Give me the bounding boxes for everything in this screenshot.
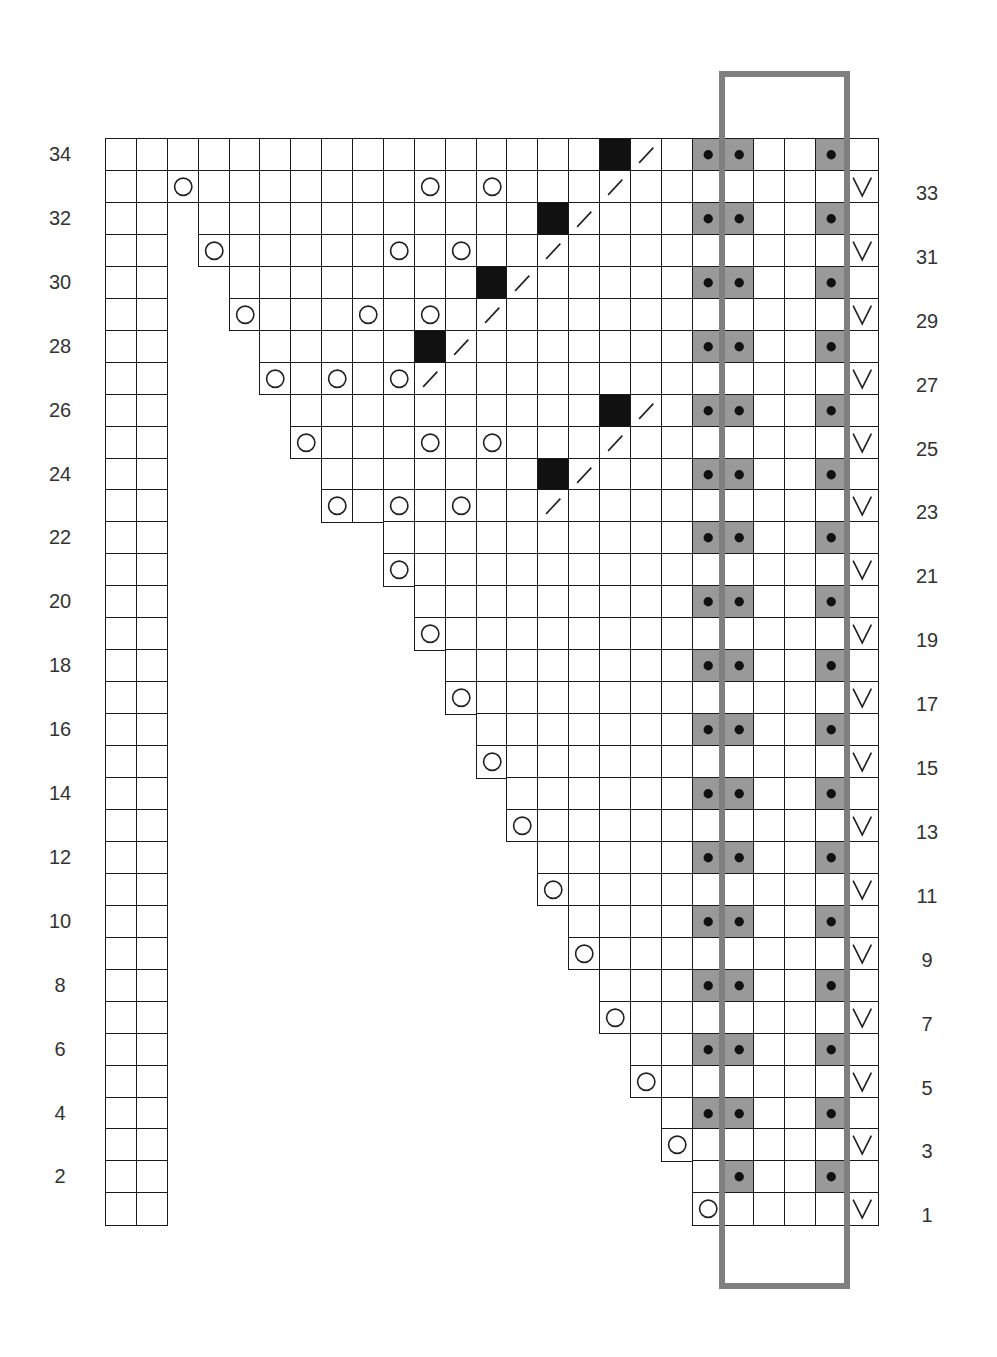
chart-cell <box>136 1033 168 1067</box>
chart-cell <box>476 489 508 523</box>
chart-cell <box>753 298 785 332</box>
purl-dot-icon <box>693 331 723 363</box>
chart-cell <box>753 1160 785 1194</box>
chart-cell <box>784 713 816 747</box>
chart-cell <box>445 585 477 619</box>
chart-cell <box>784 489 816 523</box>
slip-stitch-icon <box>847 938 877 970</box>
chart-cell <box>445 202 477 236</box>
chart-cell <box>723 202 755 236</box>
chart-cell <box>815 394 847 428</box>
chart-cell <box>383 298 415 332</box>
chart-cell <box>723 553 755 587</box>
chart-cell <box>568 330 600 364</box>
row-number-label: 26 <box>40 399 80 422</box>
chart-cell <box>414 234 446 268</box>
chart-cell <box>815 681 847 715</box>
chart-cell <box>537 234 569 268</box>
purl-dot-icon <box>693 1098 723 1130</box>
chart-cell <box>692 809 724 843</box>
chart-cell <box>537 266 569 300</box>
chart-cell <box>630 841 662 875</box>
chart-cell <box>753 969 785 1003</box>
chart-cell <box>352 394 384 428</box>
no-stitch-cell <box>414 330 446 364</box>
chart-cell <box>846 1033 878 1067</box>
k2tog-icon <box>446 331 476 363</box>
chart-cell <box>290 266 322 300</box>
slip-stitch-icon <box>847 235 877 267</box>
row-number-label: 14 <box>40 782 80 805</box>
chart-cell <box>537 585 569 619</box>
chart-cell <box>630 617 662 651</box>
chart-cell <box>723 969 755 1003</box>
chart-cell <box>846 138 878 172</box>
row-number-label: 24 <box>40 463 80 486</box>
chart-cell <box>723 681 755 715</box>
chart-cell <box>259 138 291 172</box>
chart-cell <box>198 202 230 236</box>
yarn-over-icon <box>415 299 445 331</box>
chart-cell <box>445 266 477 300</box>
chart-cell <box>815 330 847 364</box>
chart-cell <box>846 1160 878 1194</box>
slip-stitch-icon <box>847 1002 877 1034</box>
chart-cell <box>321 426 353 460</box>
chart-cell <box>753 745 785 779</box>
chart-cell <box>723 809 755 843</box>
chart-cell <box>568 489 600 523</box>
no-stitch-cell <box>537 202 569 236</box>
chart-cell <box>321 330 353 364</box>
chart-cell <box>815 426 847 460</box>
chart-cell <box>692 298 724 332</box>
chart-cell <box>630 521 662 555</box>
chart-cell <box>259 266 291 300</box>
row-number-label: 33 <box>907 182 947 205</box>
chart-cell <box>105 649 137 683</box>
chart-cell <box>537 489 569 523</box>
chart-cell <box>599 585 631 619</box>
chart-cell <box>661 202 693 236</box>
yarn-over-icon <box>322 363 352 395</box>
chart-cell <box>476 170 508 204</box>
chart-cell <box>723 1001 755 1035</box>
chart-cell <box>476 298 508 332</box>
purl-dot-icon <box>724 267 754 299</box>
purl-dot-icon <box>693 842 723 874</box>
chart-cell <box>445 553 477 587</box>
chart-cell <box>692 937 724 971</box>
chart-cell <box>723 330 755 364</box>
chart-cell <box>290 298 322 332</box>
chart-cell <box>723 426 755 460</box>
chart-cell <box>599 617 631 651</box>
chart-cell <box>723 841 755 875</box>
chart-cell <box>815 649 847 683</box>
chart-cell <box>136 1001 168 1035</box>
slip-stitch-icon <box>847 682 877 714</box>
chart-cell <box>136 649 168 683</box>
row-number-label: 32 <box>40 207 80 230</box>
chart-cell <box>846 394 878 428</box>
chart-cell <box>476 681 508 715</box>
k2tog-icon <box>477 299 507 331</box>
row-number-label: 29 <box>907 310 947 333</box>
chart-cell <box>753 553 785 587</box>
chart-cell <box>692 969 724 1003</box>
chart-cell <box>105 202 137 236</box>
chart-cell <box>784 521 816 555</box>
chart-cell <box>784 1160 816 1194</box>
chart-cell <box>661 937 693 971</box>
chart-cell <box>784 426 816 460</box>
chart-cell <box>568 234 600 268</box>
chart-cell <box>352 330 384 364</box>
chart-cell <box>414 298 446 332</box>
chart-cell <box>753 681 785 715</box>
chart-cell <box>753 489 785 523</box>
chart-cell <box>445 138 477 172</box>
chart-cell <box>383 234 415 268</box>
chart-cell <box>661 330 693 364</box>
chart-cell <box>846 745 878 779</box>
chart-cell <box>661 745 693 779</box>
chart-cell <box>136 1160 168 1194</box>
chart-cell <box>537 745 569 779</box>
